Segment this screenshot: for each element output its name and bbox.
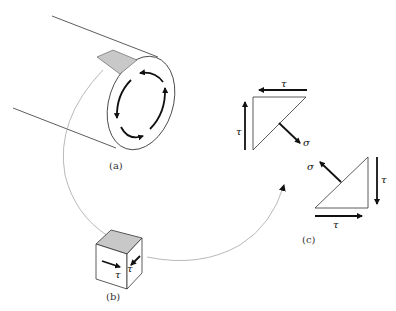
panel-a-tube: (a) (13, 16, 186, 171)
lower-tau-horizontal-label: τ (333, 219, 339, 230)
lower-sigma-arrow (320, 162, 341, 182)
connector-b-to-c (147, 185, 284, 261)
panel-c-lower-wedge: τ τ σ (c) (302, 157, 387, 245)
panel-a-label: (a) (109, 160, 123, 171)
diagram-canvas: (a) τ τ (b) τ τ σ τ τ σ (c) (0, 0, 396, 311)
lower-tau-vertical-label: τ (381, 174, 387, 185)
panel-c-label: (c) (302, 234, 316, 245)
upper-sigma-label: σ (303, 137, 311, 148)
connector-a-to-b (63, 70, 108, 236)
tube-top-edge (52, 16, 158, 57)
upper-tau-horizontal-label: τ (281, 78, 287, 89)
cube-tau-side: τ (127, 263, 133, 274)
upper-sigma-arrow (279, 123, 300, 143)
panel-c-upper-wedge: τ τ σ (236, 78, 311, 150)
panel-b-label: (b) (106, 291, 120, 302)
cube-tau-front: τ (115, 269, 121, 280)
upper-tau-vertical-label: τ (236, 126, 242, 137)
panel-b-cube: τ τ (b) (96, 230, 142, 302)
lower-sigma-label: σ (307, 161, 315, 172)
